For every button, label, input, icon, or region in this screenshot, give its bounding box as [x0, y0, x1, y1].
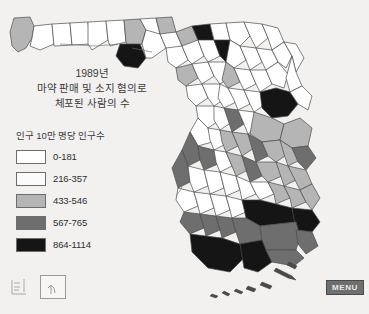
menu-button-label: MENU	[332, 283, 358, 292]
legend-item-label: 567-765	[53, 217, 87, 228]
map-title-line-1: 1989년	[8, 66, 176, 81]
legend-swatch-icon	[16, 238, 46, 252]
legend-item[interactable]: 433-546	[16, 193, 166, 208]
legend-item[interactable]: 0-181	[16, 149, 166, 164]
county-area[interactable]	[52, 23, 72, 46]
legend-swatch-icon	[16, 150, 46, 164]
county-area[interactable]	[70, 22, 90, 45]
county-area[interactable]	[226, 40, 246, 68]
keys-island	[260, 282, 272, 289]
keys-island	[210, 294, 218, 298]
scale-bar-icon	[10, 276, 34, 298]
map-title-line-3: 체포된 사람의 수	[8, 96, 176, 111]
map-title-line-2: 마약 판매 및 소지 혐의로	[8, 81, 176, 96]
map-screenshot: 1989년 마약 판매 및 소지 혐의로 체포된 사람의 수 인구 10만 명당…	[0, 0, 369, 314]
keys-island	[222, 291, 230, 296]
north-arrow-icon	[40, 275, 66, 299]
legend-swatch-icon	[16, 172, 46, 186]
legend-item[interactable]: 216-357	[16, 171, 166, 186]
legend-heading: 인구 10만 명당 인구수	[16, 128, 166, 142]
legend-item[interactable]: 567-765	[16, 215, 166, 230]
legend-item-label: 864-1114	[53, 239, 91, 250]
map-legend: 인구 10만 명당 인구수 0-181 216-357 433-546 567-…	[16, 128, 166, 259]
county-area[interactable]	[260, 222, 300, 250]
county-area[interactable]	[10, 17, 34, 52]
keys-island	[246, 286, 256, 292]
county-area[interactable]	[30, 24, 54, 50]
keys-island	[274, 268, 296, 280]
county-area[interactable]	[116, 44, 146, 68]
legend-item-label: 216-357	[53, 173, 87, 184]
menu-button[interactable]: MENU	[326, 280, 364, 295]
legend-swatch-icon	[16, 194, 46, 208]
legend-item-label: 433-546	[53, 195, 87, 206]
legend-item[interactable]: 864-1114	[16, 237, 166, 252]
county-area[interactable]	[190, 234, 244, 272]
legend-item-label: 0-181	[53, 151, 77, 162]
map-title: 1989년 마약 판매 및 소지 혐의로 체포된 사람의 수	[8, 66, 176, 112]
keys-island	[234, 289, 243, 294]
county-area[interactable]	[266, 250, 304, 266]
county-area[interactable]	[296, 230, 318, 254]
county-area[interactable]	[106, 20, 126, 46]
legend-swatch-icon	[16, 216, 46, 230]
